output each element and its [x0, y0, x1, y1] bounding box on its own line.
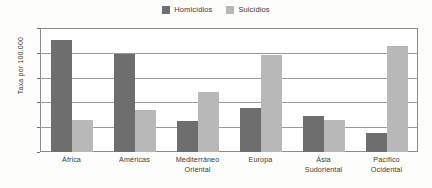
x-label-asia-sudoriental-line-2: Sudoriental [293, 165, 355, 175]
legend-item-homicidios: Homicídios [162, 5, 212, 14]
bar-homicidios-americas [114, 54, 135, 152]
bar-suicidios-africa [72, 120, 93, 152]
x-label-pacifico-ocidental: Pacífico Ocidental [356, 155, 418, 174]
legend-swatch-suicidios [226, 6, 234, 14]
legend-label-homicidios: Homicídios [174, 5, 212, 14]
y-axis-title: Taxa por 100.000 [17, 16, 24, 116]
bar-suicidios-europa [261, 55, 282, 152]
bar-group-europa [240, 28, 282, 152]
x-label-mediterraneo-oriental-line-1: Mediterrâneo [167, 155, 229, 165]
y-tick-mark-0 [37, 152, 40, 153]
bar-homicidios-africa [51, 40, 72, 152]
bar-group-asia-sudoriental [303, 28, 345, 152]
chart-legend: Homicídios Suicídios [0, 5, 432, 14]
bar-suicidios-pacifico-ocidental [387, 46, 408, 152]
bar-homicidios-mediterraneo-oriental [177, 121, 198, 152]
bar-homicidios-europa [240, 108, 261, 152]
legend-label-suicidios: Suicídios [238, 5, 269, 14]
x-label-europa-line-1: Europa [230, 155, 292, 165]
legend-swatch-homicidios [162, 6, 170, 14]
x-label-pacifico-ocidental-line-1: Pacífico [356, 155, 418, 165]
bar-group-mediterraneo-oriental [177, 28, 219, 152]
x-label-pacifico-ocidental-line-2: Ocidental [356, 165, 418, 175]
bar-group-africa [51, 28, 93, 152]
x-label-americas: Américas [104, 155, 166, 174]
bar-suicidios-mediterraneo-oriental [198, 92, 219, 152]
legend-item-suicidios: Suicídios [226, 5, 269, 14]
plot-area [40, 28, 418, 152]
bar-group-americas [114, 28, 156, 152]
x-label-asia-sudoriental-line-1: Ásia [293, 155, 355, 165]
bar-chart: Homicídios Suicídios Taxa por 100.000 25… [0, 0, 432, 188]
x-label-americas-line-1: Américas [104, 155, 166, 165]
bars-layer [40, 28, 418, 152]
bar-suicidios-americas [135, 110, 156, 152]
x-label-africa: África [41, 155, 103, 174]
bar-homicidios-asia-sudoriental [303, 116, 324, 152]
x-label-africa-line-1: África [41, 155, 103, 165]
x-label-europa: Europa [230, 155, 292, 174]
x-label-mediterraneo-oriental-line-2: Oriental [167, 165, 229, 175]
bar-suicidios-asia-sudoriental [324, 120, 345, 152]
bar-homicidios-pacifico-ocidental [366, 133, 387, 152]
x-label-mediterraneo-oriental: Mediterrâneo Oriental [167, 155, 229, 174]
x-label-asia-sudoriental: Ásia Sudoriental [293, 155, 355, 174]
bar-group-pacifico-ocidental [366, 28, 408, 152]
x-axis-labels: África Américas Mediterrâneo Oriental Eu… [40, 155, 418, 174]
